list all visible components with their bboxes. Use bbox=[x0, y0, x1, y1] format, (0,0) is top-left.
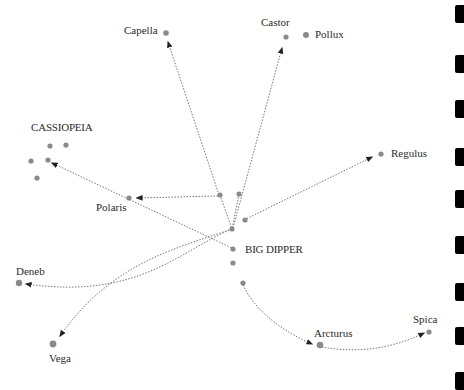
pointer-line-capella bbox=[168, 42, 219, 195]
edge-block bbox=[455, 327, 464, 345]
star-cassiopeia-4 bbox=[45, 157, 50, 162]
star-pollux bbox=[303, 32, 309, 38]
edge-block bbox=[455, 372, 464, 390]
star-cassiopeia-3 bbox=[28, 158, 33, 163]
star-vega bbox=[50, 341, 57, 348]
edge-block bbox=[455, 5, 464, 23]
pointer-line-polaris bbox=[137, 196, 218, 198]
star-cassiopeia-5 bbox=[34, 175, 39, 180]
pointer-line-regulus bbox=[244, 157, 372, 220]
star-cassiopeia-1 bbox=[47, 143, 52, 148]
star-capella bbox=[163, 30, 169, 36]
star-spica bbox=[426, 329, 431, 334]
label-cassiopeia: CASSIOPEIA bbox=[31, 121, 93, 133]
label-castor: Castor bbox=[261, 16, 290, 28]
star-arcturus bbox=[317, 342, 324, 349]
label-capella: Capella bbox=[124, 24, 158, 36]
label-arcturus: Arcturus bbox=[314, 327, 353, 339]
label-pollux: Pollux bbox=[315, 28, 344, 40]
label-deneb: Deneb bbox=[16, 265, 45, 277]
edge-block bbox=[455, 190, 464, 208]
pointer-line-arcturus bbox=[243, 285, 312, 344]
star-dipper-2 bbox=[236, 191, 241, 196]
star-polaris bbox=[126, 195, 131, 200]
label-spica: Spica bbox=[413, 313, 437, 325]
pointer-line-deneb bbox=[26, 229, 232, 287]
star-dipper-5 bbox=[230, 246, 235, 251]
edge-block bbox=[455, 148, 464, 166]
star-dipper-4 bbox=[229, 226, 234, 231]
star-dipper-1 bbox=[217, 192, 222, 197]
pointer-line-cassiopeia bbox=[52, 163, 234, 249]
star-cassiopeia-2 bbox=[63, 142, 68, 147]
edge-block bbox=[455, 100, 464, 118]
label-big-dipper: BIG DIPPER bbox=[245, 243, 303, 255]
star-dipper-6 bbox=[230, 260, 235, 265]
star-dipper-7 bbox=[240, 280, 245, 285]
pointer-line-vega bbox=[60, 229, 232, 336]
label-vega: Vega bbox=[49, 352, 71, 364]
star-dipper-3 bbox=[242, 217, 247, 222]
label-regulus: Regulus bbox=[391, 147, 427, 159]
pointer-line-castor bbox=[233, 48, 282, 228]
label-polaris: Polaris bbox=[96, 201, 127, 213]
edge-block bbox=[455, 283, 464, 301]
edge-block bbox=[455, 55, 464, 73]
edge-block bbox=[455, 236, 464, 254]
star-deneb bbox=[16, 280, 22, 286]
star-regulus bbox=[378, 151, 383, 156]
star-castor bbox=[283, 34, 288, 39]
